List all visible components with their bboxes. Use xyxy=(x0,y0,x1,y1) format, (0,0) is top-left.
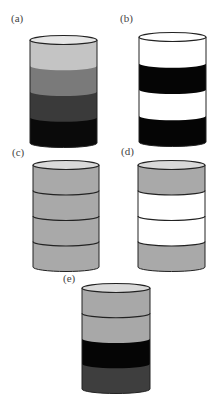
cylinder-top xyxy=(30,36,97,45)
panel-b: (b) xyxy=(120,12,206,146)
cylinder-top xyxy=(139,33,206,42)
panel-label: (d) xyxy=(121,145,134,158)
cylinder-band xyxy=(30,117,97,147)
cylinder-top xyxy=(138,161,205,170)
cylinder-band xyxy=(30,92,97,122)
cylinder-band xyxy=(139,116,206,147)
panel-label: (e) xyxy=(63,272,76,285)
panel-a: (a) xyxy=(11,12,97,148)
panel-c: (c) xyxy=(12,146,99,272)
panel-d: (d) xyxy=(121,145,205,272)
cylinder-top xyxy=(82,284,150,293)
cylinder-band xyxy=(139,90,206,121)
panel-label: (b) xyxy=(120,12,133,25)
panel-label: (a) xyxy=(11,12,24,25)
panel-label: (c) xyxy=(12,146,25,159)
cylinder-top xyxy=(33,161,99,170)
cylinder-band xyxy=(139,63,206,94)
panel-e: (e) xyxy=(63,272,150,394)
cylinder-figure: (a) (b) (c) (d) (e) xyxy=(0,0,221,410)
cylinder-band xyxy=(30,66,97,96)
